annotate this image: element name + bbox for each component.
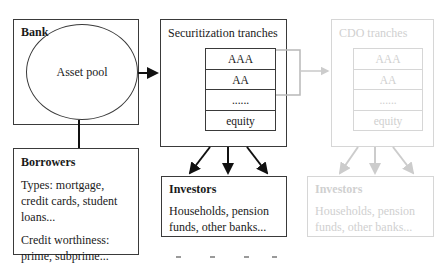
tranche-ellipsis: ...... <box>206 90 275 111</box>
investors-text: Households, pension funds, other banks..… <box>169 203 279 235</box>
borrowers-creditworthiness: Credit worthiness: prime, subprime... <box>21 232 131 264</box>
tranche-aaa: AAA <box>206 49 275 70</box>
asset-pool-ellipse: Asset pool <box>26 24 138 120</box>
cdo-tranche-aa: AA <box>354 70 422 91</box>
caption-fragment <box>172 254 292 260</box>
arrow-cdo-to-investors-right <box>393 147 413 173</box>
investors-box: Investors Households, pension funds, oth… <box>161 176 287 237</box>
securitization-title: Securitization tranches <box>168 26 278 41</box>
arrow-sec-to-investors-right <box>247 147 267 173</box>
cdo-investors-text: Households, pension funds, other banks..… <box>315 203 426 235</box>
cdo-tranche-stack: AAA AA ...... equity <box>353 48 423 131</box>
arrow-sec-to-investors-left <box>190 147 210 173</box>
securitization-tranche-stack: AAA AA ...... equity <box>205 48 276 131</box>
tranche-equity: equity <box>206 111 275 132</box>
borrowers-box: Borrowers Types: mortgage, credit cards,… <box>13 148 139 255</box>
cdo-investors-title: Investors <box>315 182 426 197</box>
cdo-tranche-equity: equity <box>354 111 422 132</box>
asset-pool-label: Asset pool <box>57 65 108 80</box>
tranche-aa: AA <box>206 70 275 91</box>
borrowers-title: Borrowers <box>21 155 131 170</box>
arrow-cdo-to-investors-left <box>340 147 358 173</box>
investors-title: Investors <box>169 182 279 197</box>
cdo-tranche-ellipsis: ...... <box>354 90 422 111</box>
cdo-investors-box: Investors Households, pension funds, oth… <box>307 176 434 237</box>
cdo-title: CDO tranches <box>339 26 407 41</box>
borrowers-types: Types: mortgage, credit cards, student l… <box>21 177 131 225</box>
cdo-tranche-aaa: AAA <box>354 49 422 70</box>
